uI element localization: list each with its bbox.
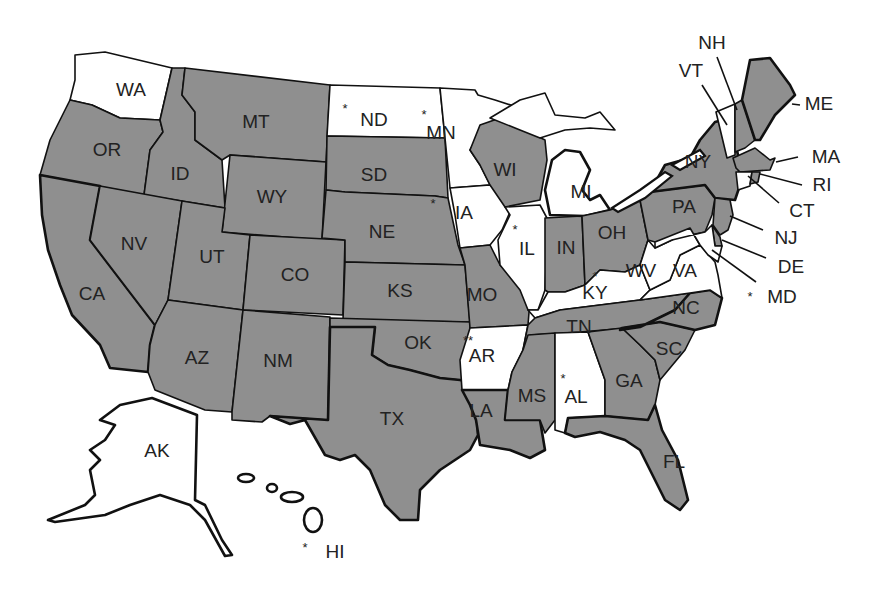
label-IA: IA (455, 202, 473, 223)
leader-MA (776, 157, 798, 162)
label-LA: LA (469, 400, 493, 421)
label-RI: RI (813, 174, 832, 195)
label-PA: PA (672, 196, 696, 217)
label-ND: ND (360, 109, 387, 130)
leader-ME (792, 104, 800, 105)
leader-NJ (730, 216, 763, 230)
label-AR: AR (469, 345, 495, 366)
label-WV: WV (626, 260, 657, 281)
label-ME: ME (805, 93, 834, 114)
label-AZ: AZ (185, 347, 210, 368)
label-MT: MT (242, 111, 270, 132)
state-HI[interactable] (238, 474, 322, 532)
label-AL: AL (564, 386, 587, 407)
mark-MN: * (421, 107, 426, 122)
label-NM: NM (263, 350, 293, 371)
state-CT[interactable] (736, 172, 752, 190)
state-AK[interactable] (48, 398, 232, 556)
mark-HI: * (302, 540, 307, 555)
label-VT: VT (679, 60, 704, 81)
label-VA: VA (673, 260, 697, 281)
mark-ND: * (342, 101, 347, 116)
label-NY: NY (685, 151, 712, 172)
mark-IL: * (512, 222, 517, 237)
label-SC: SC (656, 338, 682, 359)
leader-CT (748, 176, 779, 203)
state-ME[interactable] (742, 58, 795, 140)
label-WA: WA (116, 79, 146, 100)
label-MD: MD (767, 286, 797, 307)
label-ID: ID (171, 163, 190, 184)
label-AK: AK (144, 440, 170, 461)
label-MA: MA (812, 146, 841, 167)
mark-KY: * (592, 269, 597, 284)
label-WI: WI (493, 159, 516, 180)
mark-AL: * (560, 371, 565, 386)
label-GA: GA (615, 370, 643, 391)
label-CA: CA (79, 283, 106, 304)
label-KY: KY (582, 282, 608, 303)
leader-VT (702, 85, 727, 125)
mark-IA: * (430, 196, 435, 211)
label-NV: NV (121, 233, 148, 254)
label-OR: OR (93, 139, 122, 160)
label-HI: HI (326, 541, 345, 562)
state-MA[interactable] (733, 148, 775, 172)
mark-AR: ** (463, 333, 473, 348)
label-IN: IN (557, 237, 576, 258)
us-states-map: WA OR CA ID NV MT WY UT CO AZ NM ND * SD… (0, 0, 876, 598)
label-IL: IL (519, 238, 535, 259)
label-NE: NE (369, 221, 395, 242)
label-DE: DE (778, 256, 804, 277)
label-KS: KS (387, 280, 412, 301)
label-NJ: NJ (774, 227, 797, 248)
label-NH: NH (698, 32, 725, 53)
label-TN: TN (566, 316, 591, 337)
leader-NH (717, 57, 737, 110)
label-MO: MO (467, 284, 498, 305)
label-OH: OH (598, 222, 627, 243)
label-MN: MN (426, 122, 456, 143)
label-UT: UT (199, 246, 225, 267)
leader-RI (760, 174, 802, 185)
label-TX: TX (380, 408, 405, 429)
label-CO: CO (281, 264, 310, 285)
label-SD: SD (361, 164, 387, 185)
label-WY: WY (257, 186, 288, 207)
label-FL: FL (663, 451, 685, 472)
mark-MD: * (747, 289, 752, 304)
label-MS: MS (518, 385, 547, 406)
leader-DE (722, 240, 766, 258)
label-NC: NC (672, 297, 699, 318)
label-MI: MI (570, 181, 591, 202)
label-OK: OK (404, 332, 432, 353)
label-CT: CT (789, 200, 815, 221)
